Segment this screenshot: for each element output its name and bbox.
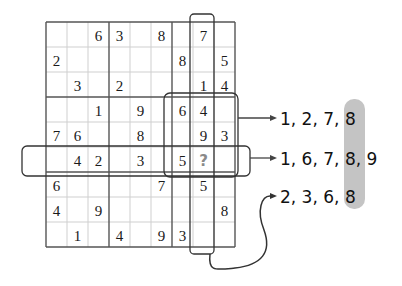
box-arrow (238, 115, 277, 121)
given-digit: 1 (200, 78, 208, 94)
given-digit: 9 (158, 228, 166, 244)
unknown-cell: ? (199, 152, 208, 170)
given-digit: 6 (74, 128, 82, 144)
given-digit: 3 (137, 153, 145, 169)
given-digit: 7 (158, 178, 166, 194)
given-digit: 4 (116, 228, 124, 244)
given-digit: 6 (53, 178, 61, 194)
given-digit: 3 (116, 28, 124, 44)
given-digit: 4 (53, 203, 61, 219)
row-arrow (250, 155, 277, 161)
given-digit: 1 (74, 228, 82, 244)
given-digit: 5 (200, 178, 208, 194)
given-digit: 2 (116, 78, 124, 94)
given-digit: 8 (137, 128, 145, 144)
sudoku-diagram: 638728532141964768934235?6754981493 1, 2… (0, 0, 402, 286)
given-digit: 4 (200, 103, 208, 119)
given-digit: 7 (53, 128, 61, 144)
given-digit: 8 (179, 53, 187, 69)
given-digit: 8 (158, 28, 166, 44)
given-digit: 5 (221, 53, 229, 69)
given-digit: 1 (95, 103, 103, 119)
given-digit: 2 (95, 153, 103, 169)
given-digit: 4 (74, 153, 82, 169)
given-digit: 9 (137, 103, 145, 119)
box-candidates: 1, 2, 7, 8 (280, 109, 356, 129)
given-digit: 9 (200, 128, 208, 144)
given-digit: 6 (95, 28, 103, 44)
column-candidates: 2, 3, 6, 8 (280, 187, 356, 207)
given-digit: 2 (53, 53, 61, 69)
given-digit: 7 (200, 28, 208, 44)
sudoku-grid: 638728532141964768934235?6754981493 (46, 22, 235, 247)
given-digit: 5 (179, 153, 187, 169)
given-digit: 3 (221, 128, 229, 144)
given-digit: 6 (179, 103, 187, 119)
given-digit: 3 (74, 78, 82, 94)
row-candidates: 1, 6, 7, 8, 9 (280, 149, 377, 169)
given-digit: 4 (221, 78, 229, 94)
given-digit: 9 (95, 203, 103, 219)
given-digit: 8 (221, 203, 229, 219)
given-digit: 3 (179, 228, 187, 244)
